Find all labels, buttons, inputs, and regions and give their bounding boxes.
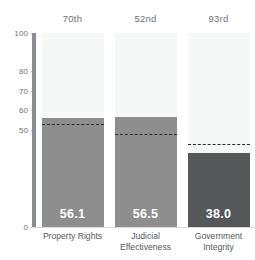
bar-column-property-rights: 56.1 [36,33,109,227]
bar-property-rights[interactable]: 56.1 [42,118,104,227]
x-axis-baseline [32,227,255,228]
bar-column-judicial-effectiveness: 56.5 [109,33,182,227]
bar-government-integrity[interactable]: 38.0 [188,153,250,227]
bar-value-property-rights: 56.1 [42,207,104,221]
bar-value-judicial-effectiveness: 56.5 [115,207,177,221]
bar-value-government-integrity: 38.0 [188,207,250,221]
bar-columns: 56.1 56.5 38.0 [36,33,255,227]
plot-area: 56.1 56.5 38.0 [36,33,255,227]
reference-line-property-rights [42,124,104,125]
percentile-label-row: 70th 52nd 93rd [36,9,255,29]
y-axis: 100 80 70 60 50 0 [0,0,36,260]
percentile-label-judicial-effectiveness: 52nd [109,9,182,29]
percentile-label-property-rights: 70th [36,9,109,29]
category-label-property-rights: Property Rights [36,231,109,252]
percentile-label-government-integrity: 93rd [182,9,255,29]
reference-line-government-integrity [188,144,250,145]
reference-line-judicial-effectiveness [115,134,177,135]
y-axis-spine [32,33,36,228]
bar-column-government-integrity: 38.0 [182,33,255,227]
category-label-government-integrity: Government Integrity [182,231,255,252]
category-label-judicial-effectiveness: Judicial Effectiveness [109,231,182,252]
category-label-row: Property Rights Judicial Effectiveness G… [36,231,255,252]
rule-of-law-bar-chart: 70th 52nd 93rd 100 80 70 60 50 0 [0,0,255,260]
